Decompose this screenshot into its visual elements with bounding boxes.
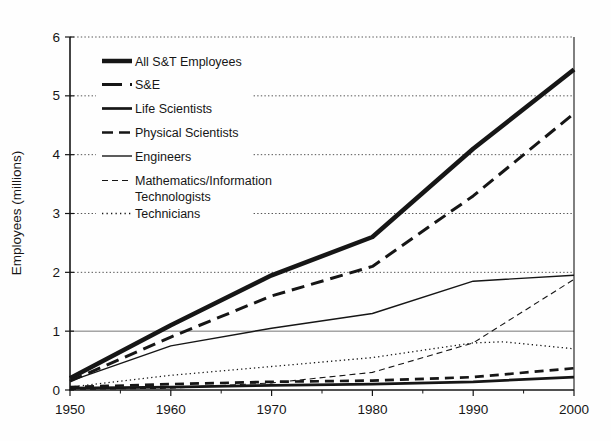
y-tick-label-0: 0 (52, 383, 60, 398)
y-tick-label-2: 2 (52, 265, 60, 280)
legend-label-all-sandt-employees: All S&T Employees (135, 55, 242, 69)
legend-label-physical-scientists: Physical Scientists (135, 126, 239, 140)
x-tick-label-1980: 1980 (357, 402, 387, 417)
y-tick-label-3: 3 (52, 206, 60, 221)
legend-label-line-1: Technologists (135, 190, 211, 204)
x-tick-label-1970: 1970 (257, 402, 287, 417)
scanned-chart-page: All S&T EmployeesS&ELife ScientistsPhysi… (0, 0, 611, 441)
series-line-mathematics-information-technologists (70, 279, 574, 389)
legend-label-line-0: Mathematics/Information (135, 174, 272, 188)
series-line-life-scientists (70, 377, 574, 388)
x-tick-label-2000: 2000 (559, 402, 589, 417)
x-tick-label-1990: 1990 (458, 402, 488, 417)
legend-label-engineers: Engineers (135, 150, 191, 164)
st-employment-line-chart: All S&T EmployeesS&ELife ScientistsPhysi… (0, 0, 611, 441)
x-tick-label-1960: 1960 (156, 402, 186, 417)
y-tick-label-6: 6 (52, 30, 60, 45)
legend-label-technicians: Technicians (135, 207, 200, 221)
y-tick-label-5: 5 (52, 88, 60, 103)
legend-label-life-scientists: Life Scientists (135, 102, 212, 116)
series-line-engineers (70, 275, 574, 381)
y-tick-label-1: 1 (52, 324, 60, 339)
y-axis-title: Employees (millions) (9, 151, 24, 276)
x-tick-label-1950: 1950 (55, 402, 85, 417)
y-tick-label-4: 4 (52, 147, 60, 162)
legend-label-sande: S&E (135, 78, 160, 92)
